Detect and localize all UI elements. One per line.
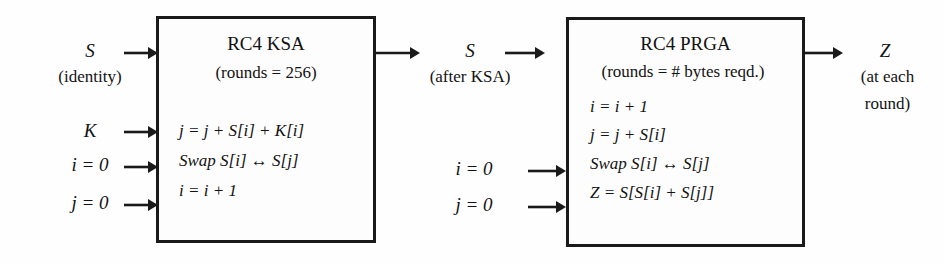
ksa-block: RC4 KSA (rounds = 256) j = j + S[i] + K[… xyxy=(156,16,376,243)
arrow-i-into-ksa xyxy=(124,158,160,176)
arrow-i-into-prga xyxy=(528,162,568,180)
rc4-block-diagram: S (identity) K i = 0 j = 0 RC4 KSA (roun… xyxy=(0,0,945,265)
prga-step-4: Z = S[S[i] + S[j]] xyxy=(590,184,802,201)
input-note-s-identity: (identity) xyxy=(40,68,140,85)
prga-step-2: j = j + S[i] xyxy=(590,126,802,143)
ksa-title: RC4 KSA xyxy=(159,34,373,53)
output-note-line1: (at each xyxy=(840,68,935,85)
prga-title: RC4 PRGA xyxy=(569,34,802,53)
ksa-step-3: i = i + 1 xyxy=(179,182,373,199)
input-label-j-init-prga: j = 0 xyxy=(428,195,520,214)
prga-step-3: Swap S[i] ↔ S[j] xyxy=(590,155,802,172)
arrow-prga-to-z xyxy=(805,44,845,62)
output-label-z: Z xyxy=(855,41,915,60)
output-note-line2: round) xyxy=(840,95,935,112)
arrow-j-into-ksa xyxy=(124,196,160,214)
prga-step-1: i = i + 1 xyxy=(590,98,802,115)
input-label-k: K xyxy=(60,121,120,140)
arrow-k-into-ksa xyxy=(124,123,160,141)
middle-note-s-after-ksa: (after KSA) xyxy=(405,68,535,85)
middle-label-s: S xyxy=(440,41,500,60)
input-label-i-init-ksa: i = 0 xyxy=(44,155,136,174)
input-label-i-init-prga: i = 0 xyxy=(428,159,520,178)
input-label-s: S xyxy=(60,41,120,60)
ksa-rounds: (rounds = 256) xyxy=(159,64,373,81)
prga-block: RC4 PRGA (rounds = # bytes reqd.) i = i … xyxy=(566,17,805,247)
input-label-j-init-ksa: j = 0 xyxy=(44,193,136,212)
ksa-step-1: j = j + S[i] + K[i] xyxy=(179,122,373,139)
arrow-j-into-prga xyxy=(528,198,568,216)
arrow-s-into-ksa xyxy=(124,44,160,62)
arrow-s-into-prga xyxy=(505,44,547,62)
arrow-ksa-to-s xyxy=(376,44,422,62)
ksa-step-2: Swap S[i] ↔ S[j] xyxy=(179,152,373,169)
prga-rounds: (rounds = # bytes reqd.) xyxy=(564,63,802,80)
